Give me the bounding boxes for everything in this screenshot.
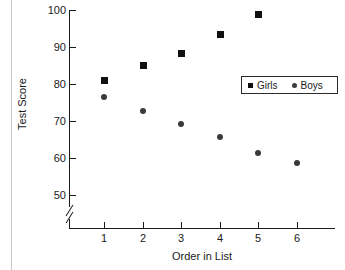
data-point-girls <box>101 77 108 84</box>
x-tick <box>181 222 182 228</box>
x-axis-title: Order in List <box>69 250 335 262</box>
y-tick <box>70 158 76 159</box>
circle-marker-icon <box>292 83 297 88</box>
y-axis-title: Test Score <box>16 64 28 144</box>
x-tick <box>104 222 105 228</box>
data-point-boys <box>294 160 300 166</box>
x-tick <box>258 222 259 228</box>
x-tick <box>143 222 144 228</box>
y-tick <box>70 47 76 48</box>
x-tick-label: 6 <box>287 232 307 244</box>
x-tick-label: 3 <box>171 232 191 244</box>
y-tick-label: 60 <box>54 153 66 164</box>
legend-entry-boys: Boys <box>292 80 323 91</box>
legend-label-girls: Girls <box>257 80 278 91</box>
x-tick <box>220 222 221 228</box>
x-tick <box>297 222 298 228</box>
data-point-girls <box>217 31 224 38</box>
x-tick-label: 5 <box>248 232 268 244</box>
square-marker-icon <box>248 83 253 88</box>
y-axis-line <box>69 10 70 207</box>
y-tick-label: 80 <box>54 79 66 90</box>
scatter-plot-figure: 100 90 80 70 60 50 1 2 3 4 5 6 Test Scor… <box>0 0 345 270</box>
y-tick-label: 90 <box>54 42 66 53</box>
data-point-girls <box>255 11 262 18</box>
y-tick-label: 70 <box>54 116 66 127</box>
legend-label-boys: Boys <box>301 80 323 91</box>
y-tick <box>70 121 76 122</box>
legend-entry-girls: Girls <box>248 80 278 91</box>
x-tick-label: 4 <box>210 232 230 244</box>
page-edge-artifact <box>11 0 12 270</box>
x-tick-label: 2 <box>133 232 153 244</box>
data-point-boys <box>101 94 107 100</box>
y-tick <box>70 10 76 11</box>
y-tick-label: 100 <box>48 5 66 16</box>
data-point-boys <box>255 150 261 156</box>
data-point-girls <box>140 62 147 69</box>
chart-legend: Girls Boys <box>241 76 338 94</box>
y-tick <box>70 84 76 85</box>
x-axis-line <box>69 228 335 229</box>
data-point-boys <box>217 134 223 140</box>
data-point-boys <box>178 121 184 127</box>
y-tick <box>70 195 76 196</box>
data-point-boys <box>140 108 146 114</box>
x-tick-label: 1 <box>94 232 114 244</box>
data-point-girls <box>178 50 185 57</box>
y-tick-label: 50 <box>54 190 66 201</box>
